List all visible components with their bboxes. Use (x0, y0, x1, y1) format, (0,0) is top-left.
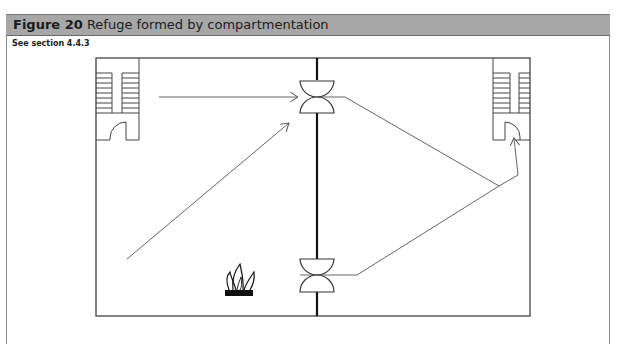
stair-treads-right (493, 73, 530, 113)
door-lower (300, 259, 334, 292)
door-swing-left (110, 122, 126, 140)
route-fire-area-to-door (127, 123, 289, 259)
route-lower-door-to-right-stair (300, 138, 518, 275)
route-upper-door-to-right-stair (317, 97, 499, 186)
fire-icon (225, 264, 254, 296)
stair-treads-left (96, 73, 139, 113)
door-swing-right (505, 122, 520, 140)
stair-right (493, 58, 530, 140)
escape-routes (127, 97, 518, 275)
stair-left (96, 58, 139, 140)
